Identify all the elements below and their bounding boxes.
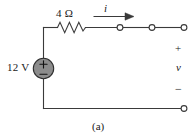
current-label: i <box>104 3 107 14</box>
wire-group <box>44 28 182 109</box>
circuit-figure: 4 Ω i 12 V + v − (a) <box>0 0 196 139</box>
terminal-voltage-label: v <box>176 62 181 73</box>
resistor-zigzag <box>58 22 86 32</box>
terminal-bottom-right <box>181 106 187 112</box>
circuit-schematic <box>0 0 196 139</box>
resistor-4-ohm <box>58 22 86 32</box>
resistor-value-label: 4 Ω <box>56 8 73 19</box>
source-value-label: 12 V <box>7 62 29 73</box>
current-arrow-head <box>125 13 134 20</box>
current-arrow-i <box>94 13 135 20</box>
dc-voltage-source-12v <box>33 58 53 78</box>
terminal-top-2 <box>149 25 155 31</box>
terminal-top-1 <box>117 25 123 31</box>
terminal-plus-label: + <box>175 43 181 54</box>
terminal-minus-label: − <box>175 83 182 95</box>
terminal-top-right <box>181 25 187 31</box>
figure-caption: (a) <box>92 121 104 132</box>
